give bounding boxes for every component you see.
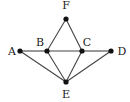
node-f: [63, 16, 68, 21]
node-label-d: D: [118, 45, 127, 58]
node-b: [44, 48, 49, 53]
edge-c-e: [66, 51, 82, 82]
node-label-b: B: [36, 36, 44, 49]
node-label-c: C: [83, 36, 91, 49]
graph-diagram: , ABCDEF: [0, 0, 130, 102]
edge-b-e: [47, 51, 66, 82]
node-a: [17, 48, 22, 53]
graph-edges: [20, 19, 111, 82]
node-label-e: E: [62, 88, 70, 101]
clipped-corner-mark: ,: [0, 0, 1, 9]
node-d: [108, 48, 113, 53]
edge-f-b: [47, 19, 66, 51]
edge-d-e: [66, 51, 111, 82]
node-e: [63, 79, 68, 84]
edge-f-c: [66, 19, 82, 51]
node-label-a: A: [7, 45, 17, 58]
node-c: [79, 48, 84, 53]
edge-a-e: [20, 51, 66, 82]
node-label-f: F: [62, 0, 70, 12]
